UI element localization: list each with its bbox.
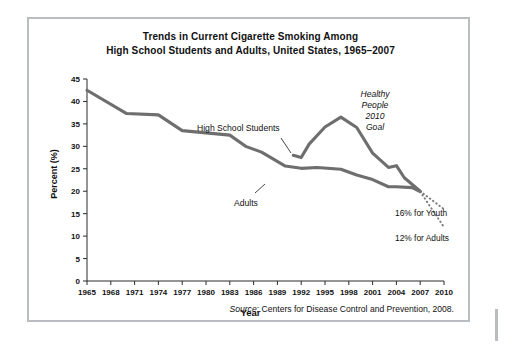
- y-tick-label: 5: [76, 255, 81, 264]
- label-adults: Adults: [234, 198, 258, 208]
- x-tick-label: 1998: [340, 288, 358, 297]
- y-tick-label: 0: [76, 277, 81, 286]
- goal-annotation-line-4: Goal: [366, 122, 385, 132]
- x-tick-label: 1983: [221, 288, 239, 297]
- x-tick-label: 1986: [245, 288, 263, 297]
- chart-axes: [87, 79, 444, 281]
- x-tick-label: 1992: [292, 288, 310, 297]
- y-tick-label: 15: [71, 210, 80, 219]
- x-tick-label: 1980: [197, 288, 215, 297]
- y-tick-label: 30: [71, 142, 80, 151]
- y-tick-label-group: 051015202530354045: [71, 75, 80, 286]
- label-high-school-students: High School Students: [197, 123, 280, 133]
- y-tick-label: 10: [71, 232, 80, 241]
- label-adults-target: 12% for Adults: [395, 233, 449, 243]
- x-tick-label-group: 1965196819711974197719801983198619891992…: [78, 288, 453, 297]
- x-tick-label: 2007: [411, 288, 429, 297]
- y-tick-group: [83, 79, 87, 281]
- leader-line-high-school-students: [281, 138, 291, 153]
- y-tick-label: 40: [71, 97, 80, 106]
- goal-annotation-line-2: People: [362, 100, 389, 110]
- chart-plot-area: 051015202530354045 196519681971197419771…: [29, 19, 472, 324]
- figure-frame: Trends in Current Cigarette Smoking Amon…: [27, 17, 470, 322]
- x-tick-label: 1965: [78, 288, 96, 297]
- x-tick-label: 1989: [269, 288, 287, 297]
- goal-annotation-line-3: 2010: [364, 111, 384, 121]
- y-tick-label: 25: [71, 165, 80, 174]
- source-word: Source: [229, 304, 256, 314]
- leader-line-adults: [255, 184, 265, 193]
- source-text: : Centers for Disease Control and Preven…: [257, 304, 454, 314]
- y-tick-label: 35: [71, 120, 80, 129]
- y-tick-label: 45: [71, 75, 80, 84]
- goal-annotation-line-1: Healthy: [360, 89, 390, 99]
- x-tick-label: 1974: [150, 288, 168, 297]
- x-tick-label: 1977: [173, 288, 191, 297]
- x-tick-label: 2001: [364, 288, 382, 297]
- page-edge-mark: [495, 309, 498, 341]
- label-youth-target: 16% for Youth: [395, 208, 447, 218]
- series-line-high-school-students: [293, 117, 420, 191]
- x-tick-label: 1971: [126, 288, 144, 297]
- x-tick-label: 1968: [102, 288, 120, 297]
- y-tick-label: 20: [71, 187, 80, 196]
- x-tick-label: 2004: [388, 288, 406, 297]
- x-tick-group: [87, 281, 444, 285]
- x-tick-label: 1995: [316, 288, 334, 297]
- projection-line-youth: [420, 191, 444, 209]
- x-tick-label: 2010: [435, 288, 453, 297]
- source-note: Source: Centers for Disease Control and …: [229, 304, 454, 314]
